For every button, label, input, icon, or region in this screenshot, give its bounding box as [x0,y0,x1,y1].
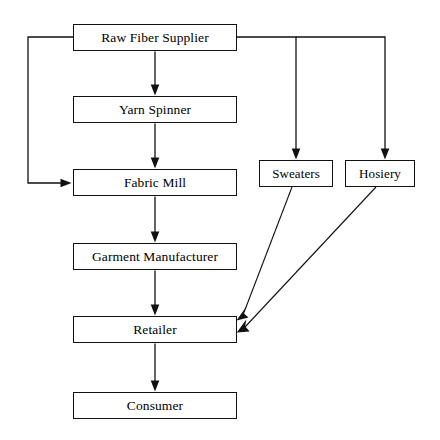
arrowhead-retailer-from-sweaters [237,307,249,321]
edge-layer [0,0,440,440]
node-raw-fiber-supplier[interactable]: Raw Fiber Supplier [73,24,237,51]
node-label-retailer: Retailer [133,323,177,337]
hosiery-branch-path [296,37,385,152]
node-label-raw-fiber-supplier: Raw Fiber Supplier [101,31,209,45]
arrowhead-consumer [151,381,160,392]
arrowhead-yarn-spinner [151,85,160,96]
arrowhead-hosiery [381,149,390,160]
sweaters-retailer-line [243,187,292,315]
arrowhead-fabric-mill [151,158,160,169]
arrowhead-garment-manufacturer [151,232,160,243]
arrowhead-sweaters [292,149,301,160]
node-label-garment-manufacturer: Garment Manufacturer [92,250,218,264]
node-sweaters[interactable]: Sweaters [259,160,333,187]
node-label-sweaters: Sweaters [272,167,320,180]
node-consumer[interactable]: Consumer [73,392,237,419]
flowchart-diagram: Raw Fiber Supplier Yarn Spinner Fabric M… [0,0,440,440]
node-garment-manufacturer[interactable]: Garment Manufacturer [73,243,237,270]
node-hosiery[interactable]: Hosiery [345,160,415,187]
edge-raw-fiber-to-fabric-mill-bypass [28,37,73,187]
node-yarn-spinner[interactable]: Yarn Spinner [73,96,237,123]
arrowhead-retailer [151,305,160,316]
edge-raw-fiber-to-hosiery [296,37,389,160]
node-label-hosiery: Hosiery [359,167,401,180]
bypass-path [28,37,73,183]
node-retailer[interactable]: Retailer [73,316,237,343]
node-fabric-mill[interactable]: Fabric Mill [73,169,237,196]
edge-raw-fiber-to-sweaters [237,37,300,160]
edge-hosiery-to-retailer [237,187,376,333]
arrowhead-fabric-mill-left [61,179,72,188]
edge-sweaters-to-retailer [237,187,293,321]
arrowhead-retailer-from-hosiery [237,319,250,332]
node-label-consumer: Consumer [127,399,183,413]
node-label-fabric-mill: Fabric Mill [124,176,186,190]
node-label-yarn-spinner: Yarn Spinner [119,103,191,117]
sweaters-branch-path [237,37,296,152]
